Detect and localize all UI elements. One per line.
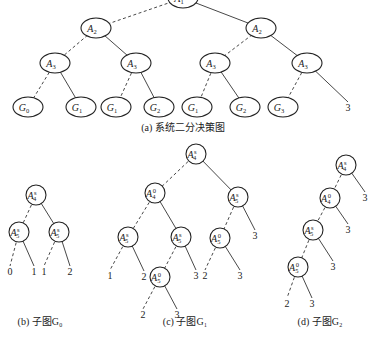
terminal-value: 2 <box>142 271 147 282</box>
decision-node: A04 <box>145 183 165 203</box>
decision-node: As5 <box>118 227 138 247</box>
terminal-value: 1 <box>32 266 37 277</box>
terminal-value: 3 <box>194 270 199 281</box>
decision-node: As5 <box>171 227 191 247</box>
node-label: As5 <box>9 226 20 239</box>
node-label: A05 <box>288 261 299 274</box>
terminal-value: 1 <box>42 266 47 277</box>
decision-node: As5 <box>228 187 248 207</box>
decision-node: G0 <box>13 97 43 117</box>
node-label: As4 <box>336 159 347 172</box>
decision-node: G2 <box>230 97 260 117</box>
decision-node: G3 <box>268 97 298 117</box>
binary-decision-diagram: A1A2A2A3A3A3A3G0G1G1G2G1G2G3As4As5As5As4… <box>0 0 372 346</box>
node-label: As5 <box>49 226 60 239</box>
terminal-value: 2 <box>203 270 208 281</box>
node-label: As5 <box>228 191 239 204</box>
node-label: As5 <box>171 231 182 244</box>
decision-node: G1 <box>66 97 96 117</box>
terminal-values-layer: 301121232332333323 <box>8 102 368 320</box>
terminal-value: 3 <box>346 102 351 113</box>
decision-node: A2 <box>246 18 276 38</box>
terminal-value: 2 <box>141 309 146 320</box>
decision-node: As5 <box>303 220 323 240</box>
caption-c: (c) 子图G₁ <box>163 316 207 328</box>
decision-node: A3 <box>40 53 70 73</box>
terminal-value: 2 <box>285 298 290 309</box>
decision-node: A04 <box>320 188 340 208</box>
decision-node: A05 <box>210 228 230 248</box>
decision-node: G1 <box>101 97 131 117</box>
decision-node: A3 <box>292 53 322 73</box>
nodes-layer: A1A2A2A3A3A3A3G0G1G1G2G1G2G3As4As5As5As4… <box>9 0 356 287</box>
decision-node: A05 <box>288 257 308 277</box>
caption-b: (b) 子图G₀ <box>18 316 63 328</box>
node-label: As4 <box>186 148 197 161</box>
decision-node: A2 <box>81 18 111 38</box>
terminal-value: 2 <box>68 266 73 277</box>
terminal-value: 3 <box>238 270 243 281</box>
node-label: As4 <box>26 189 37 202</box>
decision-node: A1 <box>168 0 198 8</box>
terminal-value: 1 <box>108 270 113 281</box>
decision-node: A3 <box>121 53 151 73</box>
decision-node: G1 <box>182 97 212 117</box>
terminal-value: 3 <box>310 298 315 309</box>
caption-d: (d) 子图G₂ <box>298 316 343 328</box>
decision-node: As4 <box>186 144 206 164</box>
node-label: A04 <box>320 192 331 205</box>
terminal-value: 3 <box>363 192 368 203</box>
decision-node: As5 <box>9 222 29 242</box>
node-label: A04 <box>145 187 156 200</box>
node-label: A05 <box>150 271 161 284</box>
decision-node: A3 <box>200 53 230 73</box>
node-label: As5 <box>303 224 314 237</box>
node-label: As5 <box>118 231 129 244</box>
decision-node: A05 <box>150 267 170 287</box>
terminal-value: 3 <box>253 230 258 241</box>
decision-node: G2 <box>144 97 174 117</box>
caption-a: (a) 系统二分决策图 <box>141 121 225 134</box>
terminal-value: 3 <box>346 224 351 235</box>
decision-node: As4 <box>336 155 356 175</box>
terminal-value: 3 <box>331 261 336 272</box>
node-label: A05 <box>210 232 221 245</box>
decision-node: As5 <box>49 222 69 242</box>
terminal-value: 0 <box>8 266 13 277</box>
decision-node: As4 <box>26 185 46 205</box>
